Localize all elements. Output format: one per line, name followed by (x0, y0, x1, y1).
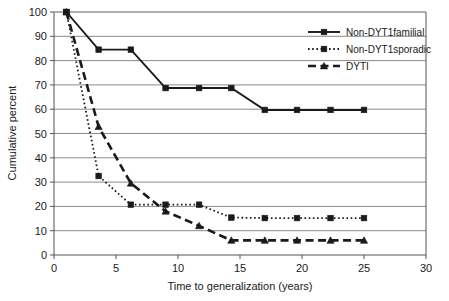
data-point-marker (294, 107, 300, 113)
y-tick-label: 100 (29, 6, 47, 18)
data-point-marker (163, 202, 169, 208)
y-tick-label: 90 (35, 30, 47, 42)
y-tick-label: 10 (35, 225, 47, 237)
x-tick-label: 15 (234, 262, 246, 274)
data-point-marker (163, 85, 169, 91)
x-axis-ticks (54, 255, 426, 259)
data-point-marker (96, 47, 102, 53)
data-point-marker (328, 107, 334, 113)
legend-label: Non-DYT1sporadic (346, 44, 431, 55)
data-point-marker (96, 173, 102, 179)
data-point-marker (262, 215, 268, 221)
data-point-marker (294, 215, 300, 221)
x-axis-title: Time to generalization (years) (167, 280, 312, 292)
y-tick-label: 60 (35, 103, 47, 115)
data-point-marker (328, 215, 334, 221)
y-tick-label: 20 (35, 200, 47, 212)
x-tick-label: 5 (113, 262, 119, 274)
legend-label: Non-DYT1familial (346, 27, 424, 38)
chart-figure: 0102030405060708090100 051015202530 Non-… (0, 0, 449, 301)
data-point-marker (321, 46, 327, 52)
x-tick-label: 30 (420, 262, 432, 274)
x-tick-label: 10 (172, 262, 184, 274)
x-tick-label: 0 (51, 262, 57, 274)
y-axis-tick-labels: 0102030405060708090100 (29, 6, 47, 261)
data-point-marker (361, 215, 367, 221)
data-point-marker (229, 215, 235, 221)
y-tick-label: 0 (41, 249, 47, 261)
cumulative-percent-line-chart: 0102030405060708090100 051015202530 Non-… (0, 0, 449, 301)
data-point-marker (196, 85, 202, 91)
data-point-marker (262, 107, 268, 113)
y-axis-ticks (50, 12, 54, 255)
y-axis-title: Cumulative percent (6, 86, 18, 181)
data-point-marker (196, 202, 202, 208)
data-point-marker (361, 107, 367, 113)
data-point-marker (128, 47, 134, 53)
data-point-marker (229, 85, 235, 91)
x-axis-tick-labels: 051015202530 (51, 262, 432, 274)
y-tick-label: 30 (35, 176, 47, 188)
data-point-marker (321, 29, 327, 35)
data-point-marker (128, 202, 134, 208)
x-tick-label: 25 (358, 262, 370, 274)
y-tick-label: 80 (35, 55, 47, 67)
y-tick-label: 70 (35, 79, 47, 91)
y-tick-label: 40 (35, 152, 47, 164)
y-tick-label: 50 (35, 128, 47, 140)
x-tick-label: 20 (296, 262, 308, 274)
legend-label: DYTI (346, 61, 369, 72)
